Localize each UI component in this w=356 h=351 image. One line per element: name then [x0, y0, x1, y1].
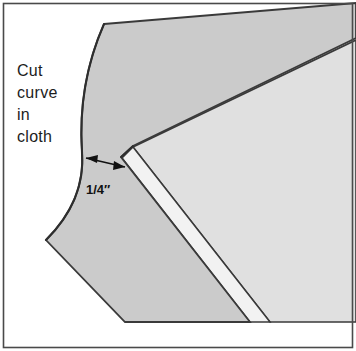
instruction-line-3: in: [17, 106, 30, 123]
cut-curve-diagram: Cut curve in cloth 1/4″: [0, 0, 356, 351]
instruction-line-2: curve: [17, 84, 58, 101]
instruction-line-4: cloth: [17, 128, 52, 145]
dimension-label: 1/4″: [86, 182, 110, 197]
figure-container: Cut curve in cloth 1/4″: [0, 0, 356, 351]
instruction-line-1: Cut: [17, 62, 43, 79]
